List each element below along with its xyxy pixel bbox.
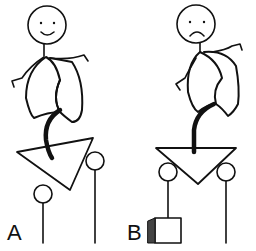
diagram-drawing [0,0,256,251]
pulley-b-left [159,163,177,181]
head-a [28,6,66,44]
pulley-a-right [86,152,104,170]
pulley-b-right [217,163,235,181]
panel-label-a: A [7,222,22,244]
weight-block [155,218,181,243]
frown-mouth [190,32,204,36]
platform-a [17,138,93,190]
diagram: A B [0,0,256,251]
figure-b [148,5,242,243]
figure-a [12,6,104,243]
head-b [177,5,215,43]
arm-right-b [212,44,242,52]
panel-label-b: B [127,222,142,244]
platform-b [156,148,236,184]
smile-mouth [41,32,54,35]
spine-a [46,110,60,158]
pulley-a-left [34,185,52,203]
torso-back-b [188,52,222,112]
